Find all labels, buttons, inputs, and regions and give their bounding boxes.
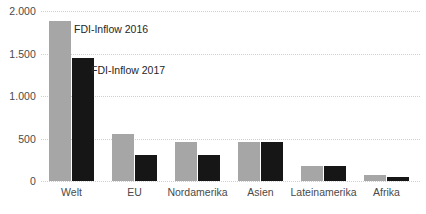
- bar-afrika-2016[interactable]: [364, 175, 386, 181]
- legend-label-2017: FDI-Inflow 2017: [91, 64, 165, 76]
- x-axis-label-afrika: Afrika: [373, 186, 400, 198]
- x-axis-label-asien: Asien: [247, 186, 273, 198]
- bar-welt-2016[interactable]: [49, 21, 71, 181]
- plot-area: [41, 11, 420, 181]
- bar-welt-2017[interactable]: [72, 58, 94, 181]
- fdi-inflow-bar-chart: 2.000 1.500 1.000 500 0 Welt EU Nordamer…: [0, 0, 426, 214]
- gridline-0: [41, 181, 420, 182]
- bar-nordamerika-2017[interactable]: [198, 155, 220, 181]
- bar-lateinamerika-2017[interactable]: [324, 166, 346, 181]
- bar-asien-2016[interactable]: [238, 142, 260, 181]
- bar-asien-2017[interactable]: [261, 142, 283, 181]
- gridline-2000: [41, 11, 420, 12]
- x-axis-label-eu: EU: [127, 186, 142, 198]
- y-axis-tick-labels: 2.000 1.500 1.000 500 0: [0, 0, 40, 214]
- gridline-500: [41, 139, 420, 140]
- legend-label-2016: FDI-Inflow 2016: [74, 23, 148, 35]
- gridline-1000: [41, 96, 420, 97]
- x-axis-label-lateinamerika: Lateinamerika: [291, 186, 357, 198]
- bar-afrika-2017[interactable]: [387, 177, 409, 181]
- y-axis-tick-label: 1.000: [9, 90, 36, 102]
- y-axis-tick-label: 2.000: [9, 5, 36, 17]
- y-axis-tick-label: 500: [18, 133, 36, 145]
- x-axis-label-nordamerika: Nordamerika: [167, 186, 227, 198]
- bar-nordamerika-2016[interactable]: [175, 142, 197, 181]
- y-axis-tick-label: 0: [30, 175, 36, 187]
- x-axis-label-welt: Welt: [61, 186, 82, 198]
- x-axis-category-labels: Welt EU Nordamerika Asien Lateinamerika …: [41, 186, 420, 208]
- bar-eu-2016[interactable]: [112, 134, 134, 181]
- gridline-1500: [41, 54, 420, 55]
- y-axis-tick-label: 1.500: [9, 48, 36, 60]
- bar-eu-2017[interactable]: [135, 155, 157, 181]
- bar-lateinamerika-2016[interactable]: [301, 166, 323, 181]
